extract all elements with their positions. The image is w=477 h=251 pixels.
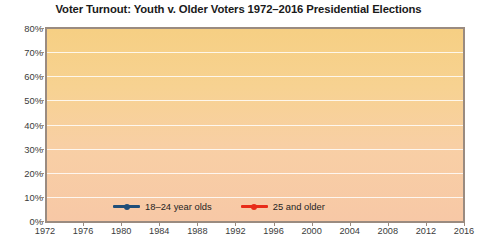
y-axis-tick-mark [39,28,44,29]
x-axis-tick-mark [159,222,160,226]
x-axis-tick-label: 1984 [139,226,179,236]
x-axis-tick-label: 1988 [177,226,217,236]
x-axis-tick-mark [388,222,389,226]
y-axis-tick-mark [39,125,44,126]
x-axis-tick-label: 2016 [444,226,477,236]
y-axis-tick-label: 40% [3,119,43,130]
y-axis-tick-label: 0% [3,216,43,227]
x-axis-tick-label: 1992 [215,226,255,236]
y-axis-tick-mark [39,76,44,77]
axis-top-border [45,27,465,29]
y-axis-tick-mark [39,173,44,174]
x-axis-tick-mark [235,222,236,226]
gridline [45,125,464,126]
x-axis-tick-label: 2012 [406,226,446,236]
gridline [45,173,464,174]
plot-right-border [463,27,465,222]
y-axis-tick-label: 10% [3,191,43,202]
x-axis-line [45,221,465,223]
x-axis-tick-mark [350,222,351,226]
gridline [45,100,464,101]
y-axis-tick-label: 60% [3,71,43,82]
legend-label: 18–24 year olds [145,201,212,212]
legend-item[interactable]: 25 and older [241,201,325,212]
gridline [45,149,464,150]
y-axis-tick-mark [39,52,44,53]
x-axis-tick-label: 1976 [63,226,103,236]
x-axis-tick-mark [312,222,313,226]
legend-item[interactable]: 18–24 year olds [113,201,212,212]
y-axis-tick-label: 30% [3,143,43,154]
y-axis-tick-label: 70% [3,47,43,58]
legend-label: 25 and older [273,201,325,212]
x-axis-tick-mark [83,222,84,226]
plot-area [45,28,464,221]
x-axis-tick-label: 1980 [101,226,141,236]
chart-title: Voter Turnout: Youth v. Older Voters 197… [0,3,477,15]
x-axis-tick-label: 2000 [292,226,332,236]
y-axis-tick-mark [39,149,44,150]
x-axis-tick-mark [426,222,427,226]
x-axis-tick-mark [121,222,122,226]
y-axis-tick-mark [39,197,44,198]
x-axis-tick-label: 2004 [330,226,370,236]
y-axis-tick-mark [39,221,44,222]
gridline [45,52,464,53]
x-axis-tick-mark [274,222,275,226]
gridline [45,197,464,198]
x-axis-tick-mark [197,222,198,226]
legend-swatch-icon [113,205,140,208]
y-axis-labels: 0%10%20%30%40%50%60%70%80% [0,0,43,251]
x-axis-tick-mark [464,222,465,226]
y-axis-line [45,27,47,222]
gridline [45,76,464,77]
legend-swatch-icon [241,205,268,208]
chart-legend: 18–24 year olds25 and older [113,201,325,212]
y-axis-tick-label: 80% [3,23,43,34]
voter-turnout-chart: Voter Turnout: Youth v. Older Voters 197… [0,0,477,251]
y-axis-tick-label: 50% [3,95,43,106]
y-axis-tick-mark [39,100,44,101]
x-axis-tick-label: 2008 [368,226,408,236]
y-axis-tick-label: 20% [3,167,43,178]
x-axis-tick-label: 1972 [25,226,65,236]
x-axis-tick-label: 1996 [254,226,294,236]
